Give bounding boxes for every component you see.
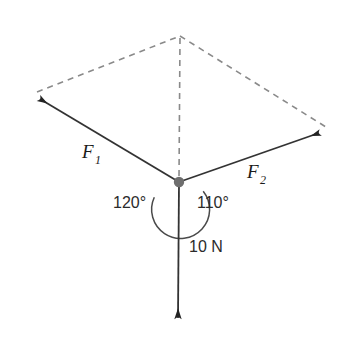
force-diagram-canvas: F 1 F 2 120° 110° 10 N — [0, 0, 345, 356]
vector-f1-subscript: 1 — [95, 153, 101, 167]
vector-f2-label: F — [246, 161, 259, 182]
angle-label-left: 120° — [113, 194, 146, 211]
angle-label-right: 110° — [197, 194, 229, 211]
origin-dot — [174, 177, 184, 187]
vector-f2-subscript: 2 — [260, 173, 266, 187]
dashed-resultant-diagonal — [179, 38, 180, 178]
vector-f1-line — [40, 99, 179, 182]
dashed-parallelogram-left-side — [37, 36, 180, 92]
force-diagram-figure: F 1 F 2 120° 110° 10 N — [0, 0, 345, 356]
magnitude-label-weight: 10 N — [189, 238, 223, 255]
vector-weight-line — [178, 182, 179, 318]
dashed-parallelogram-right-side — [180, 36, 326, 127]
vector-f1-label: F — [81, 141, 94, 162]
